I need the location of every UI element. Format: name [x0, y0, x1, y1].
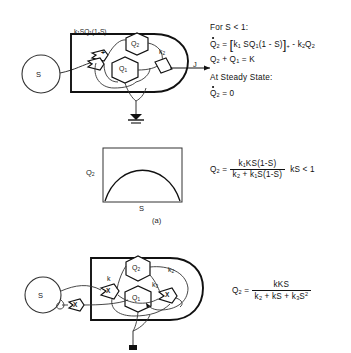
ground-block-b [129, 345, 137, 350]
rate-label-k2-b: k2 [168, 266, 174, 274]
plot-ylabel: Q2 [86, 168, 95, 177]
source-label-s-b: S [38, 291, 43, 300]
plot-curve [105, 170, 180, 201]
flow-s-to-mult-left [61, 286, 101, 291]
figure-canvas: S k1SQ1(1-S) Q2 Q1 k2 J + - For S < 1: Q… [0, 0, 351, 353]
rate-label-k2: k2 [159, 48, 165, 56]
multiplier-minus-label: - [90, 58, 93, 67]
equation-q2-quadratic: Q2 = kKS k2 + kS + k3S2 [232, 281, 311, 301]
storage-label-q2: Q2 [131, 40, 139, 48]
output-label-j: J [193, 60, 197, 69]
rate-gate-k2 [155, 58, 172, 73]
source-label-s: S [36, 70, 41, 79]
panel-b-group [25, 256, 203, 350]
equation-steady-state: Q2 = 0 [210, 90, 234, 99]
equation-conservation: Q2 + Q1 = K [210, 56, 255, 65]
plot-xlabel: S [139, 204, 144, 213]
heat-sink-triangle [130, 114, 142, 120]
plot-frame [103, 148, 182, 202]
heat-sink-arc-right [136, 88, 146, 101]
condition-header: For S < 1: [210, 24, 248, 32]
arc-mult-to-q2-b [117, 266, 126, 289]
multiplier-x-left-label: X [106, 287, 110, 294]
arc-mult-to-q2 [108, 40, 126, 55]
figure-caption-a: (a) [152, 216, 161, 225]
equation-q2-solution: Q2 = k1KS(1-S) k2 + k1S(1-S) kS < 1 [210, 160, 315, 180]
panel-a-group [22, 33, 210, 123]
multiplier-x-outer-label: X [73, 301, 77, 308]
arc-multright-out [176, 298, 182, 307]
storage-label-q1: Q1 [119, 65, 127, 73]
multiplier-x-right-label: X [165, 291, 169, 298]
flow-label-k1sq1: k1SQ1(1-S) [74, 28, 106, 36]
steady-state-header: At Steady State: [210, 74, 272, 82]
rate-label-k3-b: k3 [152, 281, 158, 289]
equation-qdot2: Q2 = [k1 SQ1(1 - S)]+ - k2Q2 [210, 38, 315, 51]
storage-label-q1-b: Q1 [132, 294, 140, 302]
multiplier-plus-label: + [101, 49, 105, 56]
storage-label-q2-b: Q2 [132, 264, 140, 272]
heat-sink-arc-b-right [133, 315, 150, 331]
flow-outer-into-module [83, 300, 128, 305]
heat-sink-arc-b-left [133, 312, 138, 331]
rate-label-k-b: k [107, 275, 111, 282]
plot-group [103, 148, 182, 202]
